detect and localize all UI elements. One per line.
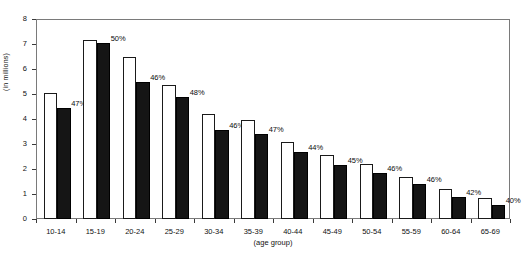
x-category-label: 10-14 [36,227,76,236]
y-tick-label: 7 [7,39,27,48]
y-axis: 012345678 [0,0,36,240]
y-tick-label: 0 [7,214,27,223]
x-tick-mark [431,219,432,223]
bar-total [281,142,295,220]
bar-group [44,19,71,219]
bar-total [241,120,255,219]
x-axis-title: (age group) [36,238,510,247]
bar-subgroup [413,184,427,219]
bar-group [123,19,150,219]
y-tick-label: 6 [7,64,27,73]
bar-group [83,19,110,219]
y-tick-label: 1 [7,189,27,198]
x-tick-mark [194,219,195,223]
bar-subgroup [97,43,111,219]
bar-group [241,19,268,219]
x-tick-mark [392,219,393,223]
bar-subgroup [373,173,387,219]
x-tick-mark [471,219,472,223]
x-tick-mark [115,219,116,223]
bar-total [83,40,97,219]
bar-group [162,19,189,219]
bar-group [478,19,505,219]
bar-subgroup [334,165,348,219]
bar-group [360,19,387,219]
bar-percent-label: 40% [506,196,521,205]
x-category-label: 35-39 [234,227,274,236]
y-tick-label: 4 [7,114,27,123]
x-tick-mark [234,219,235,223]
plot-area: 47%50%46%48%46%47%44%45%46%46%42%40% [36,19,510,219]
bar-group [320,19,347,219]
x-tick-mark [313,219,314,223]
x-tick-mark [155,219,156,223]
y-tick-label: 2 [7,164,27,173]
bar-total [360,164,374,219]
x-tick-mark [36,219,37,223]
x-tick-mark [510,219,511,223]
x-category-label: 65-69 [471,227,511,236]
bar-total [320,155,334,219]
bar-total [162,85,176,219]
bar-group [439,19,466,219]
x-category-label: 60-64 [431,227,471,236]
x-category-label: 40-44 [273,227,313,236]
bar-total [439,189,453,219]
bar-total [399,177,413,220]
x-category-label: 20-24 [115,227,155,236]
bar-subgroup [255,134,269,219]
bar-group [202,19,229,219]
y-tick-label: 8 [7,14,27,23]
bar-group [281,19,308,219]
bar-subgroup [452,197,466,220]
bar-subgroup [215,130,229,219]
x-category-label: 55-59 [392,227,432,236]
bar-subgroup [176,97,190,220]
y-tick-label: 3 [7,139,27,148]
y-tick-label: 5 [7,89,27,98]
x-category-label: 45-49 [313,227,353,236]
x-tick-mark [273,219,274,223]
x-category-label: 50-54 [352,227,392,236]
bar-subgroup [294,152,308,220]
bar-total [123,57,137,220]
x-category-label: 30-34 [194,227,234,236]
bar-total [44,93,58,219]
x-tick-mark [76,219,77,223]
bar-subgroup [136,82,150,220]
bar-subgroup [57,108,71,219]
bar-total [202,114,216,219]
bar-total [478,198,492,219]
bar-chart: (in millions) 012345678 47%50%46%48%46%4… [0,0,524,264]
bar-subgroup [492,205,506,219]
x-category-label: 25-29 [155,227,195,236]
x-tick-mark [352,219,353,223]
bar-group [399,19,426,219]
x-category-label: 15-19 [76,227,116,236]
